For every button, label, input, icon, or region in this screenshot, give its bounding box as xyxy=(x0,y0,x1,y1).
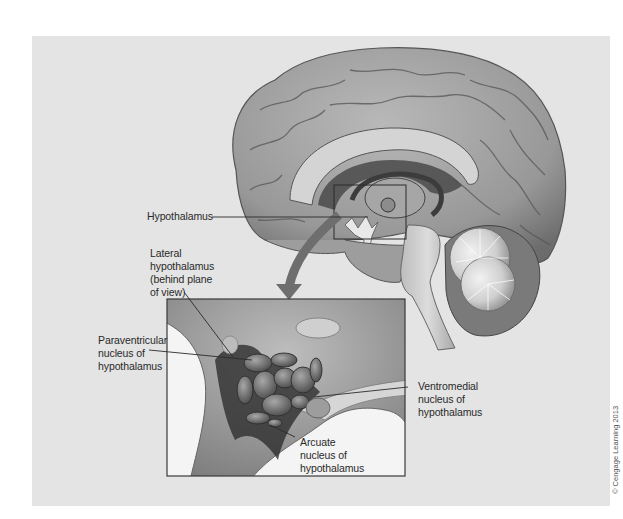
inset-enlarged-hypothalamus xyxy=(160,299,410,480)
label-line: hypothalamus xyxy=(150,260,214,273)
label-ventromedial-nucleus: Ventromedial nucleus of hypothalamus xyxy=(418,380,482,419)
cerebellum xyxy=(445,226,540,336)
label-line: Ventromedial xyxy=(418,380,482,393)
label-hypothalamus: Hypothalamus xyxy=(147,210,213,223)
label-line: of view) xyxy=(150,286,214,299)
label-hypothalamus-text: Hypothalamus xyxy=(147,210,213,222)
label-line: Arcuate xyxy=(300,436,364,449)
label-line: nucleus of xyxy=(98,347,167,360)
label-line: nucleus of xyxy=(418,393,482,406)
label-line: Lateral xyxy=(150,247,214,260)
temporal-lobe xyxy=(265,240,412,282)
label-arcuate-nucleus: Arcuate nucleus of hypothalamus xyxy=(300,436,364,475)
label-paraventricular-nucleus: Paraventricular nucleus of hypothalamus xyxy=(98,334,167,373)
label-line: hypothalamus xyxy=(300,462,364,475)
copyright-notice: © Cengage Learning 2013 xyxy=(611,406,620,494)
label-line: Paraventricular xyxy=(98,334,167,347)
label-line: hypothalamus xyxy=(98,360,167,373)
label-lateral-hypothalamus: Lateral hypothalamus (behind plane of vi… xyxy=(150,247,214,299)
label-line: (behind plane xyxy=(150,273,214,286)
label-line: nucleus of xyxy=(300,449,364,462)
label-line: hypothalamus xyxy=(418,406,482,419)
